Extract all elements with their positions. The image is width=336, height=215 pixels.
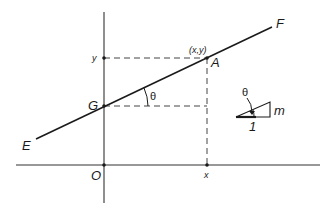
- label-x-tick: x: [203, 170, 209, 180]
- label-g: G: [88, 98, 98, 113]
- line-ef: [36, 27, 272, 139]
- label-origin: O: [91, 168, 101, 183]
- angle-arc-theta: [144, 88, 148, 106]
- point-origin: [102, 163, 106, 167]
- point-x-tick: [205, 163, 209, 167]
- label-point-coords: (x,y): [189, 45, 207, 55]
- point-y-tick: [102, 56, 106, 60]
- gradient-triangle: [236, 98, 270, 117]
- point-g: [102, 104, 106, 108]
- label-triangle-rise: m: [274, 103, 285, 118]
- line-gradient-diagram: E F G A (x,y) O x y θ θ 1 m: [0, 0, 336, 215]
- label-triangle-theta: θ: [242, 86, 248, 98]
- point-a: [205, 56, 209, 60]
- label-triangle-run: 1: [249, 119, 256, 134]
- label-e: E: [22, 138, 31, 153]
- label-theta: θ: [150, 90, 156, 102]
- label-y-tick: y: [91, 53, 97, 63]
- label-f: F: [276, 16, 285, 31]
- label-a: A: [210, 55, 220, 70]
